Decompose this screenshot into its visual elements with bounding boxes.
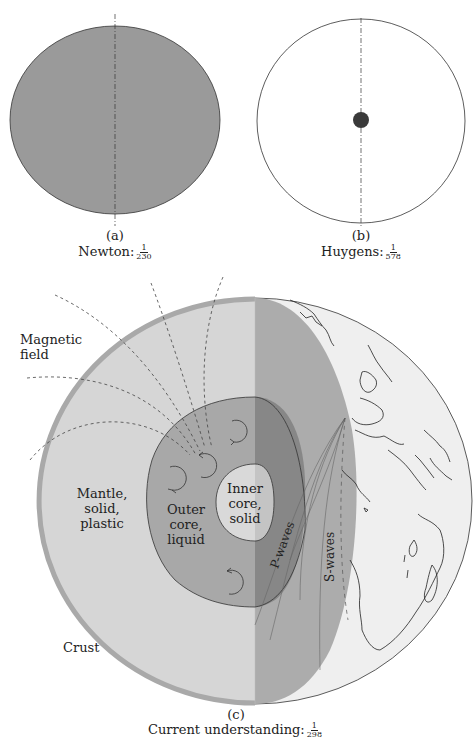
magnetic-field-label: Magnetic field [20,332,82,362]
mantle-label: Mantle, solid, plastic [72,486,132,531]
caption-a: (a) [95,228,135,243]
current-fraction: 1298 [307,722,322,739]
newton-label: Newton: [78,244,134,259]
huygens-core-dot [353,112,369,128]
caption-b: (b) [341,228,381,243]
newton-ellipse [10,14,220,226]
current-label: Current understanding: [148,722,305,737]
current-flattening: Current understanding:1298 [145,722,325,739]
newton-flattening: Newton:1230 [65,244,165,261]
figure-canvas [0,0,473,749]
outer-core-label: Outer core, liquid [158,502,214,547]
s-waves-label: S-waves [323,532,337,582]
huygens-label: Huygens: [321,244,384,259]
huygens-fraction: 1578 [386,244,401,261]
huygens-flattening: Huygens:1578 [305,244,417,261]
huygens-circle [257,18,465,228]
caption-c: (c) [216,707,256,722]
inner-core-label: Inner core, solid [220,481,270,526]
newton-fraction: 1230 [136,244,151,261]
crust-label: Crust [63,640,99,655]
